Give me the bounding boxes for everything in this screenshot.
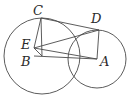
vertex-label-e: E <box>21 38 31 51</box>
vertex-label-b: B <box>21 55 31 68</box>
vertex-label-d: D <box>91 12 101 25</box>
segment-e-d <box>34 30 99 48</box>
vertex-label-a: A <box>100 55 109 68</box>
segment-c-e <box>34 18 41 48</box>
segment-d-a <box>97 30 99 59</box>
segments-group <box>34 18 99 59</box>
vertex-label-c: C <box>33 4 43 17</box>
geometry-canvas <box>0 0 131 103</box>
segment-c-b <box>41 18 42 56</box>
geometry-figure: C D E B A <box>0 0 131 103</box>
